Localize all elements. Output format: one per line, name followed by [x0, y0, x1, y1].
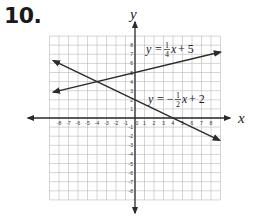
- coordinate-graph: xy -8-7-6-5-4-3-2-1012345678-8-7-6-5-4-3…: [0, 0, 262, 224]
- equation-label-1: y=14x + 5: [145, 41, 194, 59]
- x-tick-label: 2: [153, 120, 156, 126]
- svg-text:x: x: [181, 92, 188, 106]
- y-tick-label: -2: [129, 133, 134, 139]
- svg-text:y: y: [147, 92, 154, 106]
- y-tick-label: -6: [129, 170, 134, 176]
- x-tick-label: 1: [143, 120, 146, 126]
- svg-text:x: x: [170, 42, 177, 56]
- x-tick-label: -4: [95, 120, 100, 126]
- svg-text:= −: = −: [157, 92, 174, 106]
- x-tick-label: 8: [210, 120, 213, 126]
- x-tick-label: 3: [162, 120, 165, 126]
- x-tick-label: 0: [136, 120, 139, 126]
- y-tick-label: 3: [130, 88, 133, 94]
- y-tick-label: -7: [129, 179, 134, 185]
- svg-text:=: =: [155, 42, 162, 56]
- x-tick-label: -7: [66, 120, 71, 126]
- x-tick-label: -5: [85, 120, 90, 126]
- x-tick-label: -6: [76, 120, 81, 126]
- y-tick-label: 6: [130, 60, 133, 66]
- x-tick-label: -2: [114, 120, 119, 126]
- svg-text:2: 2: [176, 100, 180, 109]
- y-tick-label: -8: [129, 188, 134, 194]
- y-tick-label: -3: [129, 142, 134, 148]
- x-tick-label: -8: [57, 120, 62, 126]
- svg-text:1: 1: [176, 91, 180, 100]
- x-tick-label: -1: [123, 120, 128, 126]
- x-tick-label: 4: [172, 120, 175, 126]
- svg-text:1: 1: [165, 41, 169, 50]
- x-tick-label: 7: [200, 120, 203, 126]
- svg-text:4: 4: [165, 50, 169, 59]
- svg-text:y: y: [145, 42, 152, 56]
- svg-text:+ 2: + 2: [189, 92, 205, 106]
- y-tick-label: 1: [130, 106, 133, 112]
- y-tick-label: -5: [129, 161, 134, 167]
- x-axis-label: x: [237, 110, 245, 126]
- y-tick-label: -4: [129, 151, 134, 157]
- svg-text:+ 5: + 5: [178, 42, 194, 56]
- y-tick-label: -1: [129, 124, 134, 130]
- y-axis-label: y: [128, 6, 137, 22]
- x-tick-label: 6: [191, 120, 194, 126]
- y-tick-label: 8: [130, 42, 133, 48]
- x-tick-label: -3: [104, 120, 109, 126]
- y-tick-label: 7: [130, 51, 133, 57]
- y-tick-label: 4: [130, 79, 133, 85]
